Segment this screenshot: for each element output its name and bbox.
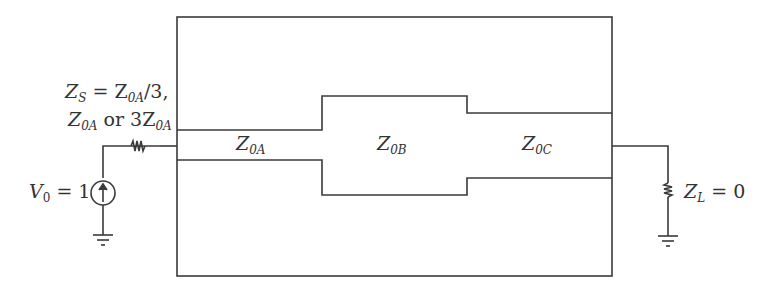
section-label-z0b: Z0B (377, 134, 407, 153)
source-voltage-label: V0 = 1 (29, 182, 90, 201)
line-top-edge (177, 96, 612, 130)
section-sub: 0C (535, 143, 552, 157)
zs-eq: = Z (86, 80, 127, 102)
section-var: Z (377, 132, 390, 154)
arrow-head (99, 184, 107, 190)
source-resistor-icon (130, 141, 160, 151)
load-resistor-icon (664, 183, 672, 197)
zl-var: Z (684, 180, 697, 202)
z0a-var: Z (68, 108, 81, 130)
load-ground-icon (658, 236, 678, 246)
source-impedance-label-line1: ZS = Z0A/3, (65, 82, 168, 101)
section-sub: 0B (390, 143, 406, 157)
section-label-z0c: Z0C (522, 134, 552, 153)
line-bottom-edge (177, 160, 612, 195)
source-impedance-label-line2: Z0A or 3Z0A (68, 110, 172, 129)
section-var: Z (236, 132, 249, 154)
z0a-sub: 0A (81, 119, 97, 133)
v0-eq: = 1 (50, 180, 90, 202)
z0a-sub2: 0A (155, 119, 171, 133)
v0-var: V (29, 180, 43, 202)
section-label-z0a: Z0A (236, 134, 266, 153)
zs-sub2: 0A (128, 91, 144, 105)
section-sub: 0A (249, 143, 265, 157)
zl-sub: L (697, 191, 705, 205)
z0a-mid: or 3Z (98, 108, 156, 130)
source-wire-left (103, 146, 130, 178)
zs-tail: /3, (144, 80, 169, 102)
section-var: Z (522, 132, 535, 154)
source-ground-icon (93, 235, 113, 245)
zl-eq: = 0 (705, 180, 745, 202)
zs-var: Z (65, 80, 78, 102)
load-wire (612, 146, 668, 183)
load-impedance-label: ZL = 0 (684, 182, 745, 201)
